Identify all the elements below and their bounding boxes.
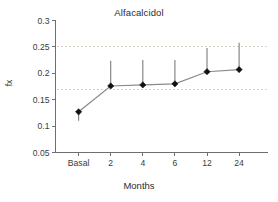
y-tick-label: 0.3 <box>38 16 50 26</box>
x-tick-label: 2 <box>108 158 113 168</box>
data-point-marker <box>172 81 178 87</box>
error-bars <box>79 43 239 121</box>
y-tick-label: 0.15 <box>33 95 50 105</box>
data-markers <box>76 67 243 115</box>
data-point-marker <box>236 67 242 73</box>
y-tick-label: 0.2 <box>38 68 50 78</box>
y-tick-label: 0.1 <box>38 121 50 131</box>
y-tick-label: 0.25 <box>33 42 50 52</box>
plot-area: 0.050.10.150.20.250.3 Basal2461224 <box>0 0 278 202</box>
y-axis-ticks: 0.050.10.150.20.250.3 <box>33 16 56 158</box>
x-tick-label: 12 <box>202 158 212 168</box>
data-point-marker <box>204 69 210 75</box>
y-tick-label: 0.05 <box>33 148 50 158</box>
gridlines <box>57 47 269 89</box>
x-tick-label: 24 <box>234 158 244 168</box>
x-tick-label: Basal <box>68 158 90 168</box>
data-series-line <box>79 70 240 112</box>
data-point-marker <box>140 82 146 88</box>
chart-figure: Alfacalcidol fx Months 0.050.10.150.20.2… <box>0 0 278 202</box>
x-tick-label: 4 <box>140 158 145 168</box>
x-tick-label: 6 <box>173 158 178 168</box>
x-axis-ticks: Basal2461224 <box>68 153 244 169</box>
